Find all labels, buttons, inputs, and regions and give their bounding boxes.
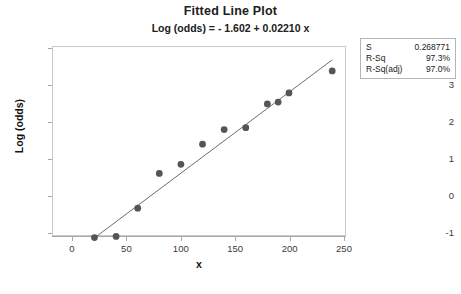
y-tick-label: 3 — [415, 79, 461, 90]
y-tick-label: 0 — [415, 190, 461, 201]
data-point — [264, 101, 271, 108]
data-point — [221, 126, 228, 133]
statistics-box: S0.268771R-Sq97.3%R-Sq(adj)97.0% — [360, 38, 456, 79]
fitted-line-plot-chart: Fitted Line Plot Log (odds) = - 1.602 + … — [0, 0, 461, 294]
statistics-row: S0.268771 — [361, 42, 455, 53]
statistics-key: R-Sq(adj) — [366, 64, 402, 75]
chart-title: Fitted Line Plot — [0, 4, 461, 18]
data-point — [275, 99, 282, 106]
statistics-row: R-Sq97.3% — [361, 53, 455, 64]
x-tick — [235, 237, 236, 241]
x-tick-label: 0 — [52, 243, 92, 254]
chart-equation-subtitle: Log (odds) = - 1.602 + 0.02210 x — [0, 22, 461, 34]
x-tick — [126, 237, 127, 241]
plot-inner — [53, 47, 345, 235]
x-tick — [290, 237, 291, 241]
data-point — [91, 234, 98, 241]
plot-area — [52, 46, 346, 236]
statistics-key: S — [366, 42, 372, 53]
data-point — [199, 141, 206, 148]
x-tick-label: 150 — [215, 243, 255, 254]
x-tick-label: 250 — [324, 243, 364, 254]
regression-line — [94, 60, 332, 238]
data-point — [242, 124, 249, 131]
data-point — [113, 233, 120, 240]
data-point — [286, 90, 293, 97]
plot-svg — [53, 47, 345, 235]
x-tick-label: 50 — [106, 243, 146, 254]
data-point — [156, 170, 163, 177]
statistics-row: R-Sq(adj)97.0% — [361, 64, 455, 75]
y-axis-label: Log (odds) — [13, 71, 25, 181]
statistics-key: R-Sq — [366, 53, 385, 64]
y-tick-label: 1 — [415, 153, 461, 164]
x-tick — [344, 237, 345, 241]
data-point — [134, 205, 141, 212]
statistics-value: 97.3% — [426, 53, 450, 64]
data-point — [178, 161, 185, 168]
y-tick-label: 2 — [415, 116, 461, 127]
x-tick-label: 200 — [270, 243, 310, 254]
y-tick-label: -1 — [415, 227, 461, 238]
statistics-value: 97.0% — [426, 64, 450, 75]
data-point — [329, 68, 336, 75]
x-tick — [72, 237, 73, 241]
statistics-value: 0.268771 — [415, 42, 450, 53]
x-tick-label: 100 — [161, 243, 201, 254]
x-axis-label: x — [52, 258, 346, 270]
x-tick — [181, 237, 182, 241]
